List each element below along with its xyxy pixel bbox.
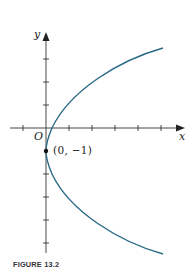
parabola-figure xyxy=(0,0,186,276)
y-axis-label: y xyxy=(34,28,40,41)
vertex-label: (0, −1) xyxy=(53,144,92,156)
x-axis-label: x xyxy=(179,130,185,143)
figure-caption: FIGURE 13.2 xyxy=(13,260,59,269)
vertex-point xyxy=(44,149,48,153)
y-axis-arrow-icon xyxy=(43,32,50,41)
origin-label: O xyxy=(34,130,43,143)
